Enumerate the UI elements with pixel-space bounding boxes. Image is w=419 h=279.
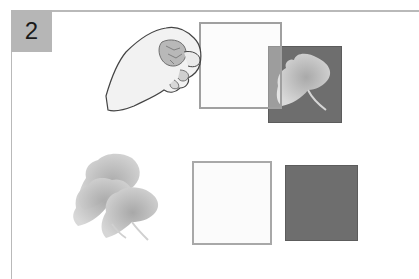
bottom-dark-square: [285, 165, 358, 241]
panel-frame-top: [11, 10, 419, 12]
panel-number-badge: 2: [11, 10, 52, 52]
hand-holding-sheet-icon: [104, 24, 208, 114]
bottom-white-square: [192, 161, 272, 245]
top-white-sheet: [199, 22, 282, 109]
leaf-stack-icon: [66, 148, 166, 244]
panel-number: 2: [25, 17, 38, 45]
